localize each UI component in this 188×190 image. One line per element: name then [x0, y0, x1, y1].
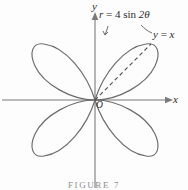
identity-line-label: y = x	[153, 29, 175, 40]
curve-equation-argument: 2θ	[139, 8, 150, 20]
curve-equation-label: r = 4 sin 2θ	[99, 9, 150, 20]
x-axis-label: x	[173, 94, 178, 105]
y-axis-arrowhead-icon	[92, 12, 99, 20]
rose-petal-quadrant-2	[32, 44, 95, 100]
rose-petal-quadrant-4	[95, 100, 158, 156]
x-axis-arrowhead-icon	[165, 97, 173, 104]
identity-line-dashed	[95, 44, 151, 100]
curve-equation-equals: =	[103, 8, 115, 20]
figure-caption: FIGURE 7	[0, 180, 188, 190]
rose-petal-quadrant-1	[95, 44, 158, 100]
origin-label: O	[96, 101, 103, 111]
rose-petal-quadrant-3	[32, 100, 95, 156]
curve-equation-function: sin	[121, 8, 139, 20]
polar-rose-figure: y x O r = 4 sin 2θ y = x FIGURE 7	[0, 0, 188, 190]
line-label-leader-line	[141, 25, 152, 33]
y-axis-label: y	[92, 1, 97, 12]
identity-line-rhs: x	[170, 28, 175, 40]
identity-line-equals: =	[158, 28, 170, 40]
